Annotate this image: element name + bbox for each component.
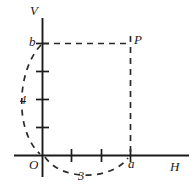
horizontal-dimension-arc — [45, 157, 128, 175]
origin-label: O — [29, 158, 38, 171]
horizontal-axis-label: H — [170, 160, 179, 173]
point-a-label: a — [128, 157, 135, 170]
coordinate-diagram: V H O b a P 4 3 — [0, 0, 194, 187]
point-b-label: b — [29, 35, 36, 48]
point-p-label: P — [134, 33, 142, 46]
vertical-dimension-label: 4 — [20, 94, 26, 107]
vertical-axis-label: V — [30, 4, 38, 17]
horizontal-dimension-label: 3 — [78, 170, 84, 183]
